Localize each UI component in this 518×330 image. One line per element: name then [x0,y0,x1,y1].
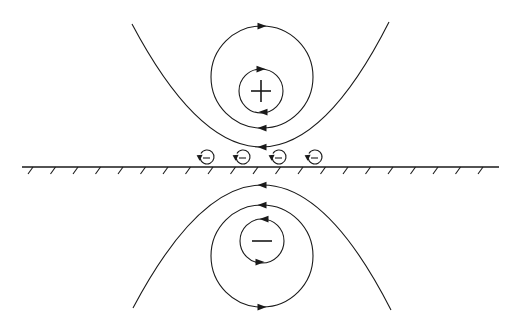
secondary-vortex [269,150,286,164]
arrow-left-icon [260,216,269,223]
hatch-mark [118,167,123,174]
hatch-mark [141,167,146,174]
hatch-mark [433,167,438,174]
hatch-mark [456,167,461,174]
hatch-mark [51,167,56,174]
secondary-vortex [233,150,250,164]
hatch-mark [231,167,236,174]
arrow-left-icon [258,182,267,189]
arrow-left-icon [258,202,267,209]
arrow-right-icon [258,23,267,30]
hatch-mark [28,167,33,174]
hatch-mark [478,167,483,174]
hatch-mark [366,167,371,174]
hatch-mark [321,167,326,174]
arrow-right-icon [256,259,265,266]
secondary-vortex [305,150,322,164]
arrow-right-icon [257,66,266,73]
secondary-vortices [197,150,322,164]
arrow-left-icon [258,144,267,151]
hatch-mark [388,167,393,174]
hatch-mark [163,167,168,174]
arrow-icon [269,155,275,161]
secondary-vortex [197,150,214,164]
arrow-left-icon [259,109,268,116]
hatch-mark [276,167,281,174]
arrow-icon [305,155,311,161]
hatch-mark [253,167,258,174]
hatch-mark [96,167,101,174]
arrow-icon [197,155,203,161]
hatch-mark [73,167,78,174]
hatch-mark [343,167,348,174]
plus-sign-icon [251,80,271,102]
vortex-wall-diagram: + − [0,0,518,330]
hatch-mark [208,167,213,174]
hatch-mark [298,167,303,174]
hatch-mark [186,167,191,174]
lower-middle-streamline [211,205,313,307]
hatch-mark [411,167,416,174]
wall-hatching [28,167,483,174]
arrow-left-icon [258,125,267,132]
arrow-icon [233,155,239,161]
wall [22,167,499,174]
arrow-right-icon [258,304,267,311]
diagram-canvas [0,0,518,330]
